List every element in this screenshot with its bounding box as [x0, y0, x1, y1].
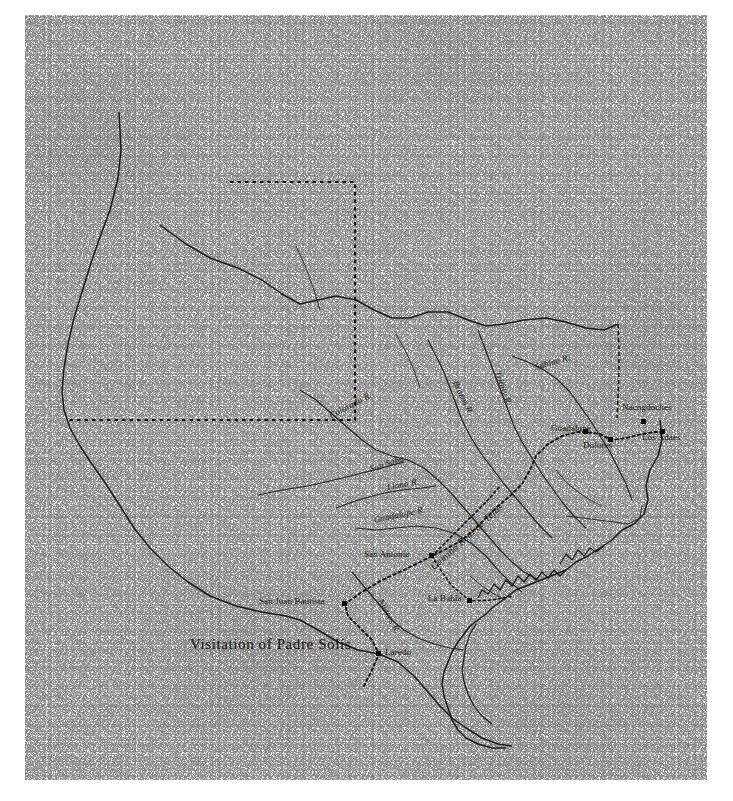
- coastal-inlet-detail: [462, 624, 492, 724]
- settlement-label-san-juan-bautista: San Juan Bautista: [259, 597, 325, 606]
- river-tributary-coastal: [566, 506, 642, 524]
- barrier-island-laguna: [478, 570, 566, 598]
- red-river-northern-boundary: [160, 225, 618, 330]
- river-nueces: [352, 572, 464, 650]
- river-tributary-east: [556, 470, 602, 506]
- settlement-label-guadalupe: Guadalupe: [551, 424, 591, 433]
- settlement-label-laredo: Laredo: [385, 648, 411, 657]
- settlement-label-dolores: Dolores: [583, 441, 612, 450]
- settlement-label-los-adaes: Los Adaes: [642, 433, 681, 442]
- map-title: Visitation of Padre Solís: [190, 637, 351, 652]
- texas-louisiana-eastern-boundary: [617, 324, 619, 418]
- settlement-label-san-antonio: San Antonio: [364, 550, 410, 559]
- settlement-label-nacogdoches: Nacogdoches: [622, 403, 672, 412]
- coastal-bay-outline: [560, 546, 604, 564]
- gulf-coast-shoreline: [442, 420, 662, 748]
- historical-map-figure: Visitation of Padre Solís San Juan Bauti…: [0, 0, 733, 801]
- settlement-label-la-bahia: La Bahía: [428, 594, 462, 603]
- rio-grande-western-boundary: [62, 112, 300, 620]
- river-tributary-north: [396, 334, 420, 388]
